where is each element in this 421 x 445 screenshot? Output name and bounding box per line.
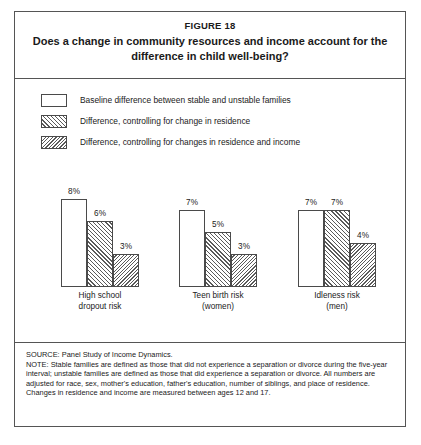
bar-value: 3% [120,242,132,252]
legend-label-residence-income: Difference, controlling for changes in r… [80,137,300,148]
bar-value: 5% [212,220,224,230]
bar-wrap: 3% [113,179,139,287]
bar-residence-income [113,254,139,287]
bar-residence [324,210,350,287]
bar-wrap: 7% [298,179,324,287]
bar-wrap: 5% [205,179,231,287]
group-label-line: High school [61,291,139,302]
bar-wrap: 7% [179,179,205,287]
group-label-line: Idleness risk [298,291,376,302]
group-label-line: Teen birth risk [179,291,257,302]
figure-container: FIGURE 18 Does a change in community res… [14,11,406,427]
bar-residence-income [231,254,257,287]
legend-swatch-hatch-backward-icon [41,136,67,149]
bar-baseline [298,210,324,287]
page-title: Does a change in community resources and… [25,34,395,63]
legend-label-residence: Difference, controlling for change in re… [80,116,250,127]
legend-item-residence: Difference, controlling for change in re… [41,111,405,131]
chart-legend: Baseline difference between stable and u… [15,79,405,159]
source-note-block: SOURCE: Panel Study of Income Dynamics. … [15,342,405,404]
note-line: NOTE: Stable families are defined as tho… [26,360,394,398]
legend-item-baseline: Baseline difference between stable and u… [41,90,405,110]
bar-residence [205,232,231,287]
bar-residence-income [350,243,376,287]
legend-swatch-plain-icon [41,94,67,107]
source-line: SOURCE: Panel Study of Income Dynamics. [26,350,394,360]
legend-swatch-hatch-forward-icon [41,115,67,128]
group-label-teen-birth: Teen birth risk (women) [179,291,257,312]
bar-baseline [61,199,87,287]
bar-wrap: 4% [350,179,376,287]
bar-wrap: 3% [231,179,257,287]
bar-residence [87,221,113,287]
group-label-idleness: Idleness risk (men) [298,291,376,312]
bar-value: 6% [94,209,106,219]
bar-chart-plot: 8% 6% 3% High school dropout risk [15,163,405,323]
bar-wrap: 8% [61,179,87,287]
bar-value: 8% [68,187,80,197]
group-label-line: (men) [298,302,376,313]
figure-number: FIGURE 18 [25,19,395,33]
bar-baseline [179,210,205,287]
group-label-line: dropout risk [61,302,139,313]
bar-value: 4% [357,231,369,241]
bar-wrap: 7% [324,179,350,287]
bar-value: 7% [331,198,343,208]
figure-title-block: FIGURE 18 Does a change in community res… [15,12,405,79]
bar-value: 7% [186,198,198,208]
legend-item-residence-income: Difference, controlling for changes in r… [41,132,405,152]
group-label-line: (women) [179,302,257,313]
group-label-high-school-dropout: High school dropout risk [61,291,139,312]
bar-value: 3% [238,242,250,252]
bar-wrap: 6% [87,179,113,287]
bar-value: 7% [305,198,317,208]
legend-label-baseline: Baseline difference between stable and u… [80,95,291,106]
